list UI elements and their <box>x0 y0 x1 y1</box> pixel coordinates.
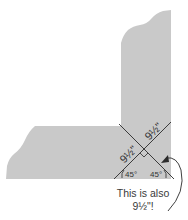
angle-label-right: 45° <box>150 170 162 179</box>
board-shape <box>6 10 171 179</box>
caption-line-1: This is also <box>113 187 173 200</box>
angle-label-left: 45° <box>125 170 137 179</box>
caption: This is also 9½"! <box>113 187 173 213</box>
caption-line-2: 9½"! <box>113 200 173 213</box>
